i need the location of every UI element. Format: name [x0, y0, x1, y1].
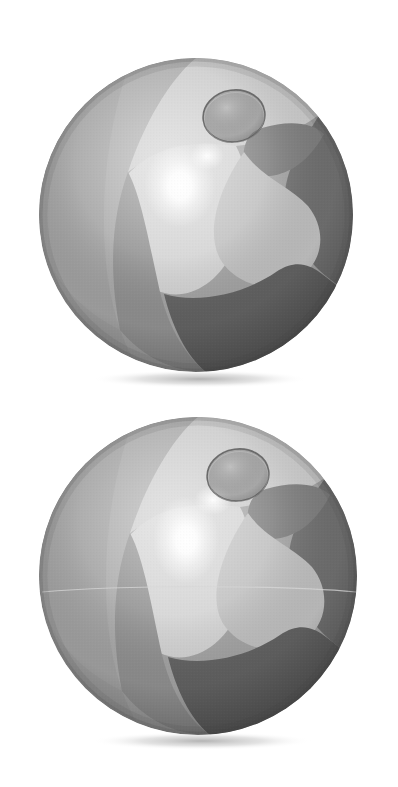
beach-ball-upper-figure: [0, 0, 398, 393]
ground-shadow: [92, 370, 308, 388]
beach-ball-lower-figure: [0, 393, 398, 787]
beach-ball-lower-svg: [0, 393, 398, 787]
scene-canvas: [0, 0, 398, 787]
ball-body: [0, 393, 398, 787]
beach-ball-upper-svg: [0, 0, 398, 393]
ball-body: [0, 0, 398, 393]
